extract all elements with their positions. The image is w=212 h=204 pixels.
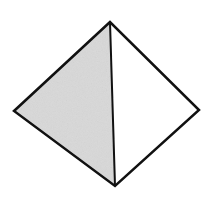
pyramid-diagram [0, 0, 212, 204]
left-face-shaded [14, 22, 115, 186]
pyramid-svg [0, 0, 212, 204]
right-face [110, 22, 199, 186]
